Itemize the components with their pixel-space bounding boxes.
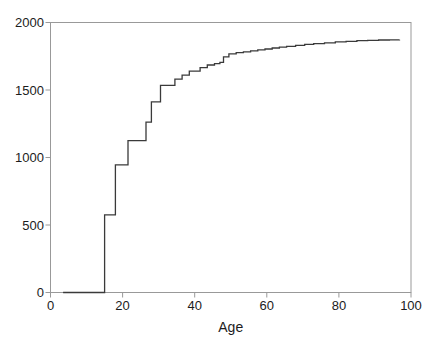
y-tick-label: 1000	[15, 150, 44, 165]
chart-figure: 0204060801000500100015002000 Age	[0, 0, 435, 350]
x-tick-label: 80	[332, 298, 346, 313]
y-tick-label: 0	[37, 285, 44, 300]
axis-tick-labels: 0204060801000500100015002000	[15, 15, 422, 313]
x-axis-title: Age	[218, 319, 243, 335]
x-tick-label: 20	[115, 298, 129, 313]
y-tick-label: 500	[22, 218, 44, 233]
x-tick-label: 40	[187, 298, 201, 313]
x-tick-label: 0	[47, 298, 54, 313]
x-tick-label: 60	[260, 298, 274, 313]
data-series-line	[63, 40, 399, 293]
age-cumulative-step-chart: 0204060801000500100015002000 Age	[0, 0, 435, 350]
data-series	[63, 40, 399, 293]
y-tick-label: 1500	[15, 83, 44, 98]
axis-ticks	[46, 23, 412, 298]
y-tick-label: 2000	[15, 15, 44, 30]
x-tick-label: 100	[400, 298, 422, 313]
